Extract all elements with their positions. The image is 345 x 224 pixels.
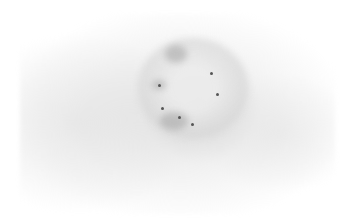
punctum bbox=[210, 72, 213, 75]
punctum bbox=[158, 84, 161, 87]
punctum bbox=[191, 123, 194, 126]
punctum bbox=[161, 107, 164, 110]
nuclear-cluster bbox=[165, 45, 187, 63]
microscopy-image bbox=[0, 0, 345, 224]
nuclear-cluster bbox=[160, 112, 188, 130]
punctum bbox=[216, 93, 219, 96]
punctum bbox=[178, 116, 181, 119]
